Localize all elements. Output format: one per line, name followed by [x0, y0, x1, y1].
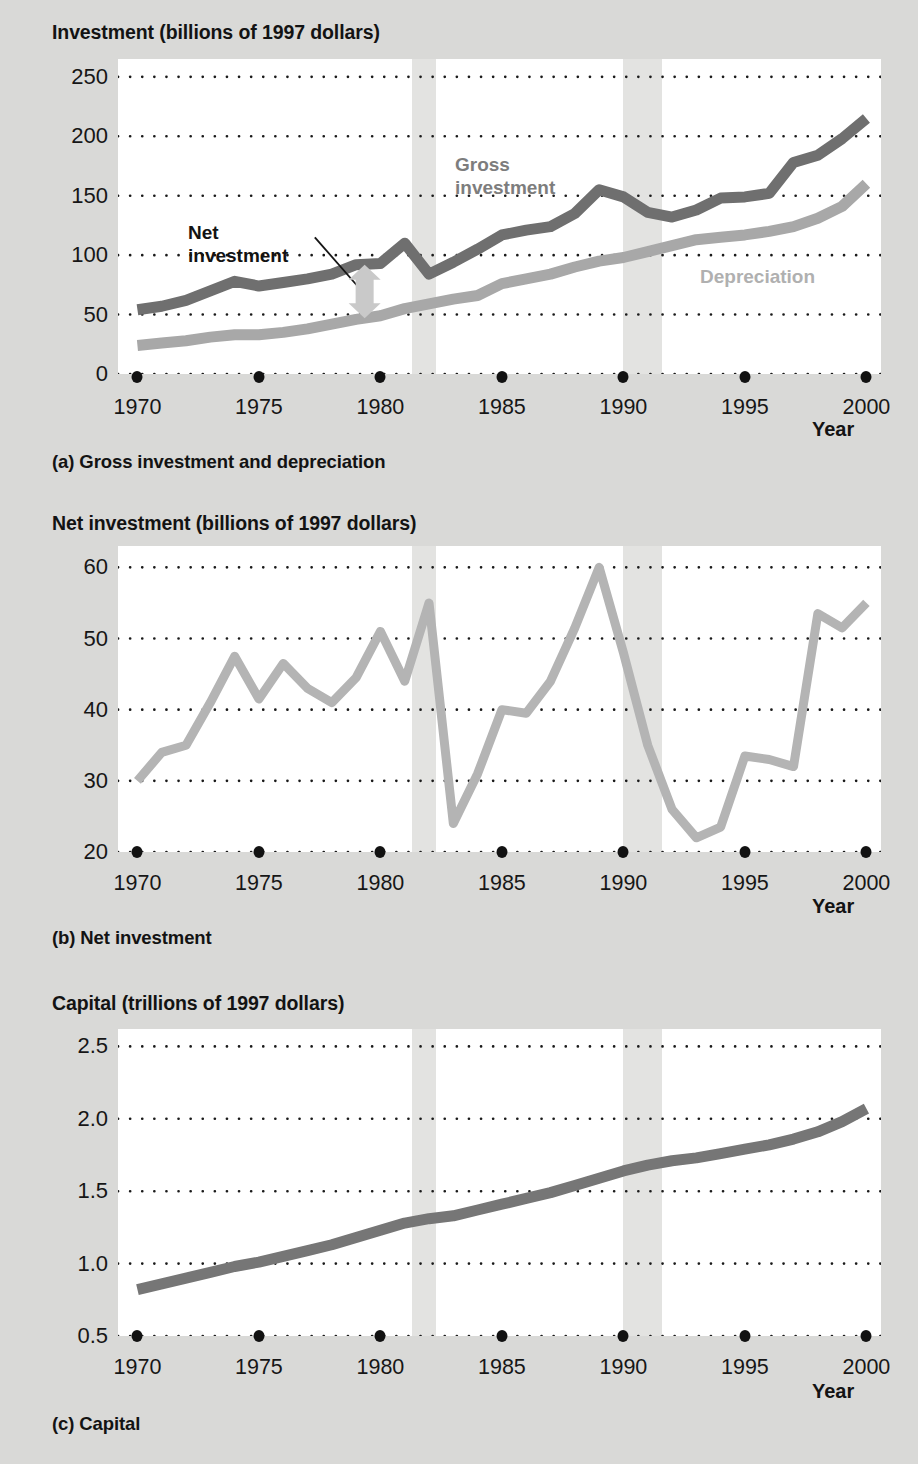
panel-a-depreciation-label: Depreciation — [700, 265, 815, 288]
x-axis-tick-label: 1970 — [114, 395, 162, 420]
panel-b-plot-area — [118, 546, 881, 852]
x-axis-tick-marker — [132, 846, 143, 858]
y-axis-tick-label: 40 — [0, 697, 108, 723]
y-axis-tick-label: 2.0 — [0, 1106, 108, 1132]
x-axis-tick-label: 1975 — [235, 871, 283, 896]
x-axis-tick-label: 1980 — [357, 395, 405, 420]
x-axis-tick-marker — [618, 846, 629, 858]
panel-c-capital: Capital (trillions of 1997 dollars) 0.51… — [0, 930, 918, 1464]
x-axis-tick-label: 1985 — [478, 871, 526, 896]
y-axis-tick-label: 1.0 — [0, 1251, 108, 1277]
x-axis-tick-label: 2000 — [842, 395, 890, 420]
figure-page: Investment (billions of 1997 dollars) 05… — [0, 0, 918, 1464]
x-axis-tick-marker — [375, 1330, 386, 1342]
x-axis-tick-marker — [739, 371, 750, 383]
gross-label-line2: investment — [455, 177, 555, 198]
x-axis-tick-label: 1975 — [235, 1355, 283, 1380]
x-axis-tick-marker — [861, 1330, 872, 1342]
net-investment-double-arrow — [349, 265, 381, 318]
x-axis-tick-label: 1990 — [600, 395, 648, 420]
panel_a-svg-canvas — [118, 59, 881, 374]
series-line-net-investment — [137, 567, 866, 837]
panel-a-gross-investment-label: Gross investment — [455, 153, 555, 199]
series-line-capital — [137, 1109, 866, 1290]
y-axis-tick-label: 20 — [0, 839, 108, 865]
y-axis-tick-label: 50 — [0, 302, 108, 328]
x-axis-tick-label: 1985 — [478, 1355, 526, 1380]
y-axis-tick-label: 2.5 — [0, 1033, 108, 1059]
y-axis-tick-label: 150 — [0, 183, 108, 209]
x-axis-tick-marker — [132, 1330, 143, 1342]
y-axis-tick-label: 0 — [0, 361, 108, 387]
x-axis-tick-marker — [253, 846, 264, 858]
panel-b-year-label: Year — [812, 895, 854, 918]
x-axis-tick-marker — [496, 1330, 507, 1342]
x-axis-tick-marker — [253, 1330, 264, 1342]
x-axis-tick-label: 1980 — [357, 871, 405, 896]
panel-a-net-investment-label: Net investment — [188, 221, 288, 267]
x-axis-tick-marker — [496, 846, 507, 858]
x-axis-tick-marker — [496, 371, 507, 383]
x-axis-tick-label: 1970 — [114, 871, 162, 896]
y-axis-tick-label: 30 — [0, 768, 108, 794]
x-axis-tick-marker — [375, 846, 386, 858]
y-axis-tick-label: 100 — [0, 242, 108, 268]
x-axis-tick-label: 1980 — [357, 1355, 405, 1380]
x-axis-tick-marker — [132, 371, 143, 383]
panel-c-caption: (c) Capital — [52, 1413, 140, 1435]
panel-a-plot-area — [118, 59, 881, 374]
panel-a-axis-title: Investment (billions of 1997 dollars) — [52, 21, 380, 44]
x-axis-tick-label: 2000 — [842, 1355, 890, 1380]
x-axis-tick-marker — [861, 371, 872, 383]
panel-b-axis-title: Net investment (billions of 1997 dollars… — [52, 512, 416, 535]
x-axis-tick-marker — [618, 371, 629, 383]
x-axis-tick-label: 1990 — [600, 871, 648, 896]
panel-a-year-label: Year — [812, 418, 854, 441]
gross-label-line1: Gross — [455, 154, 510, 175]
x-axis-tick-marker — [861, 846, 872, 858]
panel-b-net-investment: Net investment (billions of 1997 dollars… — [0, 490, 918, 930]
panel-c-axis-title: Capital (trillions of 1997 dollars) — [52, 992, 344, 1015]
panel-c-year-label: Year — [812, 1380, 854, 1403]
x-axis-tick-label: 1975 — [235, 395, 283, 420]
x-axis-tick-label: 1970 — [114, 1355, 162, 1380]
y-axis-tick-label: 50 — [0, 626, 108, 652]
panel_c-svg-canvas — [118, 1029, 881, 1336]
y-axis-tick-label: 60 — [0, 554, 108, 580]
y-axis-tick-label: 0.5 — [0, 1323, 108, 1349]
panel-c-plot-area — [118, 1029, 881, 1336]
net-label-line1: Net — [188, 222, 219, 243]
x-axis-tick-label: 2000 — [842, 871, 890, 896]
panel-a-gross-investment-and-depreciation: Investment (billions of 1997 dollars) 05… — [0, 0, 918, 490]
net-label-line2: investment — [188, 245, 288, 266]
x-axis-tick-label: 1995 — [721, 871, 769, 896]
y-axis-tick-label: 200 — [0, 123, 108, 149]
x-axis-tick-marker — [253, 371, 264, 383]
y-axis-tick-label: 250 — [0, 64, 108, 90]
y-axis-tick-label: 1.5 — [0, 1178, 108, 1204]
panel_b-svg-canvas — [118, 546, 881, 852]
x-axis-tick-label: 1990 — [600, 1355, 648, 1380]
x-axis-tick-marker — [618, 1330, 629, 1342]
x-axis-tick-marker — [739, 1330, 750, 1342]
x-axis-tick-label: 1995 — [721, 395, 769, 420]
x-axis-tick-marker — [375, 371, 386, 383]
x-axis-tick-label: 1995 — [721, 1355, 769, 1380]
panel-a-caption: (a) Gross investment and depreciation — [52, 451, 386, 473]
x-axis-tick-label: 1985 — [478, 395, 526, 420]
x-axis-tick-marker — [739, 846, 750, 858]
